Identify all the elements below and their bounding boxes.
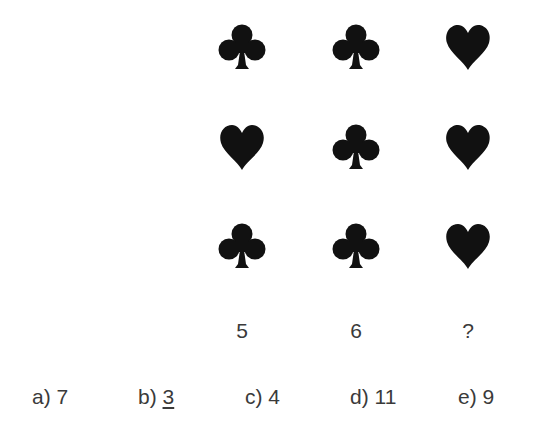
option-e[interactable]: e) 9 — [458, 386, 494, 407]
heart-icon — [216, 123, 268, 171]
column-value-1: 5 — [236, 320, 248, 341]
option-b[interactable]: b) 3 — [138, 386, 174, 407]
column-value-3: ? — [462, 320, 474, 341]
option-a[interactable]: a) 7 — [32, 386, 68, 407]
club-icon — [330, 23, 382, 71]
club-icon — [216, 23, 268, 71]
option-value: 11 — [375, 385, 397, 408]
club-icon — [216, 222, 268, 270]
heart-icon — [442, 123, 494, 171]
column-value-2: 6 — [350, 320, 362, 341]
option-letter: e) — [458, 385, 477, 408]
option-letter: d) — [350, 385, 369, 408]
option-letter: a) — [32, 385, 51, 408]
option-value: 3 — [163, 385, 175, 408]
option-value: 9 — [483, 385, 495, 408]
heart-icon — [442, 222, 494, 270]
club-icon — [330, 123, 382, 171]
option-value: 7 — [57, 385, 69, 408]
option-value: 4 — [268, 385, 280, 408]
club-icon — [330, 222, 382, 270]
option-letter: b) — [138, 385, 157, 408]
option-c[interactable]: c) 4 — [245, 386, 280, 407]
option-letter: c) — [245, 385, 263, 408]
option-d[interactable]: d) 11 — [350, 386, 396, 407]
heart-icon — [442, 23, 494, 71]
